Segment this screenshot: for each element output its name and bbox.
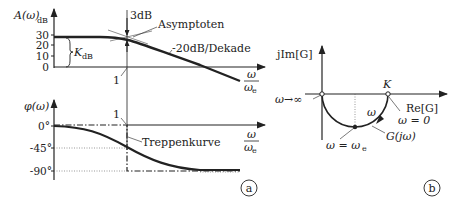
label-b: b	[424, 180, 440, 196]
label-a: a	[241, 180, 257, 196]
phase-plot: 0° -45° -90° φ(ω) 1 Treppenkurve ω ω e	[24, 100, 265, 180]
omega-e-label-sub: e	[362, 144, 367, 153]
amplitude-corner-label: 1	[113, 74, 120, 87]
amplitude-xlabel-den-sub: e	[252, 86, 257, 95]
annotation-asymptotes: Asymptoten	[157, 18, 224, 31]
amplitude-ylabel-sub: dB	[37, 16, 48, 25]
k-point	[386, 92, 390, 96]
amplitude-xlabel-num: ω	[247, 68, 256, 81]
imag-axis-label: jIm[G]	[275, 48, 313, 61]
phase-xlabel-num: ω	[247, 128, 256, 141]
gain-brace	[66, 38, 73, 67]
omega-infinity-label: ω→∞	[275, 93, 302, 106]
amplitude-plot: 30 20 10 0 A(ω) dB K dB 3dB Asymptoten -…	[13, 9, 265, 150]
svg-text:b: b	[428, 182, 435, 195]
ytick-0: 0	[42, 61, 49, 73]
ytick-minus45deg: -45°	[30, 142, 52, 154]
annotation-step-curve: Treppenkurve	[142, 136, 221, 149]
omega-e-label: ω = ω	[326, 139, 360, 152]
gain-label-sub: dB	[82, 52, 93, 61]
phase-ylabel: φ(ω)	[24, 100, 49, 113]
omega-arrow-label: ω	[367, 106, 376, 119]
ytick-0deg: 0°	[38, 120, 50, 132]
phase-corner-label: 1	[113, 108, 120, 121]
curve-label: G(jω)	[386, 130, 416, 143]
asymptote-slope	[110, 31, 152, 41]
annotation-slope: -20dB/Dekade	[172, 42, 251, 55]
ytick-minus90deg: -90°	[30, 165, 52, 177]
phase-xlabel-den-sub: e	[252, 146, 257, 155]
annotation-3db: 3dB	[130, 9, 152, 22]
amplitude-ylabel: A(ω)	[13, 9, 40, 22]
nyquist-plot: jIm[G] Re[G] ω K ω = 0 ω→∞ ω = ω e G(jω)	[275, 46, 447, 153]
bode-nyquist-figure: 30 20 10 0 A(ω) dB K dB 3dB Asymptoten -…	[0, 0, 456, 211]
k-label: K	[382, 78, 392, 91]
omega-zero-label: ω = 0	[398, 114, 430, 127]
svg-text:a: a	[246, 182, 253, 195]
